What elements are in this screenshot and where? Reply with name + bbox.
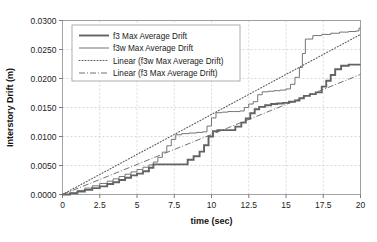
y-axis-title: Interstory Drift (m) xyxy=(5,68,15,147)
x-axis-title: time (sec) xyxy=(190,216,232,226)
legend-label: Linear (f3 Max Average Drift) xyxy=(113,69,218,78)
x-tick-label: 7.5 xyxy=(168,200,180,210)
interstory-drift-line-chart: 02.557.51012.51517.520 0.00000.00500.010… xyxy=(0,0,377,242)
chart-container: 02.557.51012.51517.520 0.00000.00500.010… xyxy=(0,0,377,242)
x-tick-label: 12.5 xyxy=(240,200,257,210)
x-tick-label: 17.5 xyxy=(315,200,332,210)
y-tick-label: 0.0050 xyxy=(31,161,57,171)
x-tick-label: 15 xyxy=(281,200,291,210)
y-tick-label: 0.0200 xyxy=(31,74,57,84)
y-tick-label: 0.0300 xyxy=(31,16,57,26)
y-tick-label: 0.0000 xyxy=(31,190,57,200)
legend-label: f3w Max Average Drift xyxy=(113,44,194,53)
x-tick-label: 20 xyxy=(356,200,366,210)
y-tick-label: 0.0250 xyxy=(31,45,57,55)
x-tick-label: 10 xyxy=(207,200,217,210)
legend-label: Linear (f3w Max Average Drift) xyxy=(113,57,224,66)
x-tick-label: 5 xyxy=(135,200,140,210)
x-tick-label: 2.5 xyxy=(94,200,106,210)
x-tick-label: 0 xyxy=(60,200,65,210)
y-tick-label: 0.0150 xyxy=(31,103,57,113)
legend-label: f3 Max Average Drift xyxy=(113,32,188,41)
y-tick-label: 0.0100 xyxy=(31,132,57,142)
chart-legend: f3 Max Average Driftf3w Max Average Drif… xyxy=(72,25,240,81)
